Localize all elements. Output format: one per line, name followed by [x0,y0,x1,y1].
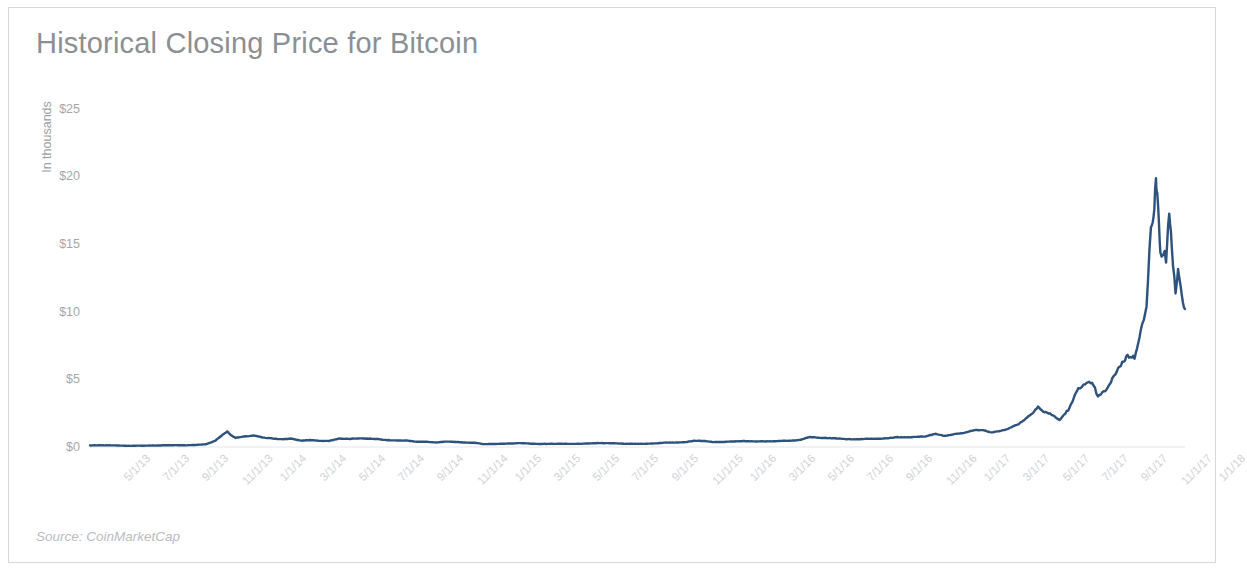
x-tick-label: 3/1/16 [786,452,817,483]
x-tick-label: 11/1/14 [475,452,510,487]
x-tick-label: 5/1/14 [356,452,387,483]
x-tick-label: 11/1/17 [1179,452,1214,487]
y-tick-label: $0 [28,440,80,454]
x-tick-label: 11/1/16 [944,452,979,487]
x-tick-label: 5/1/16 [825,452,856,483]
x-tick-label: 3/1/14 [317,452,348,483]
bitcoin-price-line [90,178,1185,446]
x-axis-tick-labels: 5/1/137/1/139/1/1311/1/131/1/143/1/145/1… [90,452,1185,512]
figure-frame-right [1215,7,1216,563]
x-tick-label: 1/1/15 [512,452,543,483]
x-tick-label: 9/1/13 [200,452,231,483]
x-tick-label: 3/1/17 [1021,452,1052,483]
x-tick-label: 9/1/15 [669,452,700,483]
x-tick-label: 11/1/15 [710,452,745,487]
x-tick-label: 7/1/15 [630,452,661,483]
x-tick-label: 11/1/13 [240,452,275,487]
figure-frame-bottom [8,562,1216,563]
x-tick-label: 1/1/18 [1216,452,1247,483]
x-tick-label: 7/1/17 [1099,452,1130,483]
source-note: Source: CoinMarketCap [36,529,180,544]
x-tick-label: 1/1/16 [747,452,778,483]
chart-title: Historical Closing Price for Bitcoin [36,27,478,60]
x-tick-label: 9/1/14 [434,452,465,483]
y-tick-label: $15 [28,237,80,251]
y-tick-label: $25 [28,102,80,116]
y-tick-label: $10 [28,305,80,319]
x-tick-label: 9/1/17 [1138,452,1169,483]
plot-area [90,95,1185,447]
y-tick-label: $20 [28,169,80,183]
x-tick-label: 5/1/17 [1060,452,1091,483]
x-tick-label: 5/1/13 [121,452,152,483]
x-tick-label: 5/1/15 [591,452,622,483]
x-tick-label: 3/1/15 [552,452,583,483]
x-tick-label: 9/1/16 [904,452,935,483]
x-tick-label: 1/1/17 [982,452,1013,483]
x-tick-label: 7/1/14 [395,452,426,483]
figure-frame-top [8,7,1216,8]
y-tick-label: $5 [28,372,80,386]
x-tick-label: 7/1/13 [160,452,191,483]
x-tick-label: 1/1/14 [278,452,309,483]
x-tick-label: 7/1/16 [864,452,895,483]
figure-frame-left [8,7,9,563]
price-line-series [90,95,1185,447]
